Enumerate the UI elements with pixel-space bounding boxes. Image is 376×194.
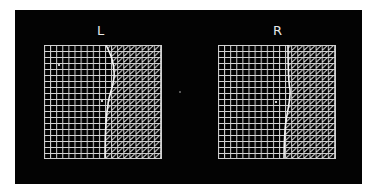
panel-label-left: L	[97, 24, 104, 37]
panel-label-right: R	[273, 24, 282, 37]
right-grid-panel	[218, 45, 336, 159]
marker-dot	[101, 100, 103, 102]
marker-dot	[58, 64, 60, 66]
marker-dot	[275, 101, 277, 103]
marker-dot	[179, 91, 181, 93]
left-grid-panel	[44, 45, 162, 159]
